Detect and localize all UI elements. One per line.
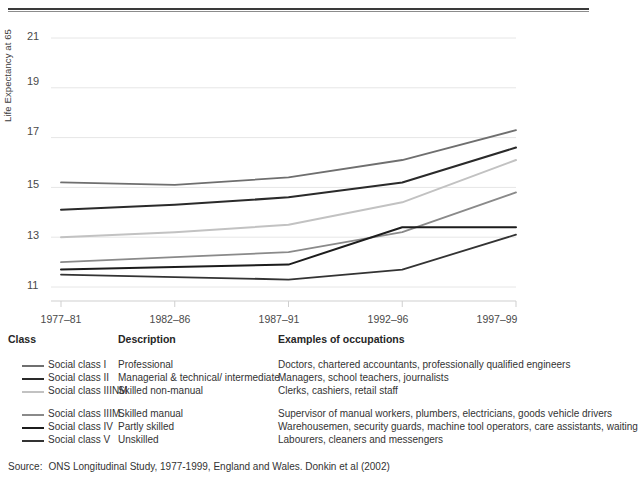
legend-line-swatch (22, 378, 44, 380)
legend-description: Skilled non-manual (118, 385, 203, 396)
legend-line-swatch (22, 365, 44, 367)
legend-description: Unskilled (118, 434, 159, 445)
legend-description: Partly skilled (118, 421, 174, 432)
x-axis-line (51, 301, 516, 307)
legend-description: Managerial & technical/ intermediate (118, 372, 280, 383)
legend-rows-container: Social class IProfessionalDoctors, chart… (8, 359, 593, 447)
series-line (61, 160, 516, 237)
legend-row: Social class IProfessionalDoctors, chart… (8, 359, 593, 372)
source-note: Source:ONS Longitudinal Study, 1977-1999… (8, 461, 390, 472)
line-chart: Life Expectancy at 65 21 19 17 15 13 11 … (0, 18, 597, 318)
top-divider-rule (8, 8, 589, 10)
legend-description: Skilled manual (118, 408, 183, 419)
legend-row: Social class VUnskilledLabourers, cleane… (8, 434, 593, 447)
series-line (61, 235, 516, 280)
legend-class-label: Social class I (48, 359, 106, 370)
legend-occupations: Doctors, chartered accountants, professi… (278, 359, 570, 370)
legend-row: Social class IVPartly skilledWarehouseme… (8, 421, 593, 434)
legend-line-swatch (22, 391, 44, 393)
gridlines (51, 38, 516, 287)
legend-occupations: Supervisor of manual workers, plumbers, … (278, 408, 612, 419)
legend-class-label: Social class V (48, 434, 110, 445)
series-line (61, 130, 516, 185)
legend-header-row: Class Description Examples of occupation… (8, 333, 593, 353)
legend-class-label: Social class II (48, 372, 109, 383)
source-label: Source: (8, 461, 42, 472)
legend-line-swatch (22, 440, 44, 442)
legend-occupations: Labourers, cleaners and messengers (278, 434, 443, 445)
legend-occupations: Managers, school teachers, journalists (278, 372, 449, 383)
legend-table: Class Description Examples of occupation… (8, 333, 593, 447)
legend-row: Social class IIIMSkilled manualSuperviso… (8, 408, 593, 421)
legend-header-occupations: Examples of occupations (278, 333, 405, 345)
legend-class-label: Social class IIINM (48, 385, 127, 396)
legend-header-class: Class (8, 333, 36, 345)
series-lines (61, 130, 516, 279)
legend-row: Social class IIINMSkilled non-manualCler… (8, 385, 593, 398)
legend-line-swatch (22, 427, 44, 429)
legend-occupations: Clerks, cashiers, retail staff (278, 385, 398, 396)
plot-area (0, 18, 597, 318)
legend-occupations: Warehousemen, security guards, machine t… (278, 421, 638, 432)
legend-line-swatch (22, 414, 44, 416)
legend-header-description: Description (118, 333, 176, 345)
legend-class-label: Social class IV (48, 421, 113, 432)
series-line (61, 148, 516, 210)
source-text: ONS Longitudinal Study, 1977-1999, Engla… (48, 461, 389, 472)
legend-description: Professional (118, 359, 173, 370)
legend-row: Social class IIManagerial & technical/ i… (8, 372, 593, 385)
legend-class-label: Social class IIIM (48, 408, 120, 419)
